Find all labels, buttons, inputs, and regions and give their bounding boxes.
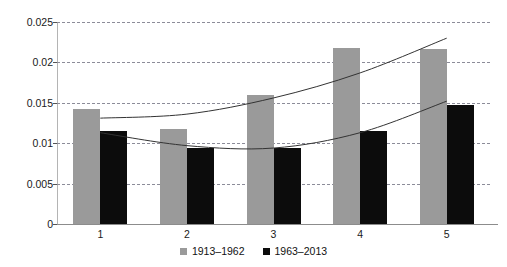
- legend-label: 1913–1962: [192, 246, 245, 257]
- plot-area: [57, 22, 490, 224]
- x-axis-tick-label: 1: [97, 229, 103, 240]
- x-axis-line: [57, 224, 498, 225]
- y-axis-tick-label: 0.01: [7, 138, 53, 149]
- legend-swatch-icon: [263, 248, 270, 255]
- bar-2-series-2: [187, 148, 214, 224]
- chart-container: 0 0.005 0.01 0.015 0.02 0.025 12345 1913…: [0, 0, 507, 267]
- x-axis-tick-label: 2: [184, 229, 190, 240]
- bar-4-series-2: [360, 131, 387, 224]
- y-axis-tick-label: 0.015: [7, 98, 53, 109]
- x-axis-tick-label: 3: [271, 229, 277, 240]
- legend-swatch-icon: [180, 248, 187, 255]
- legend-item-series-2[interactable]: 1963–2013: [263, 246, 328, 257]
- y-axis-tick-label: 0.005: [7, 178, 53, 189]
- bar-5-series-2: [447, 105, 474, 224]
- y-axis: 0 0.005 0.01 0.015 0.02 0.025: [0, 0, 53, 267]
- bar-3-series-2: [274, 148, 301, 224]
- x-axis-tick-label: 5: [444, 229, 450, 240]
- bar-2-series-1: [160, 129, 187, 224]
- bar-1-series-2: [100, 131, 127, 224]
- gridline: [57, 22, 490, 23]
- y-axis-tick-label: 0: [7, 219, 53, 230]
- legend: 1913–1962 1963–2013: [0, 246, 507, 257]
- legend-item-series-1[interactable]: 1913–1962: [180, 246, 245, 257]
- bar-5-series-1: [420, 49, 447, 224]
- bar-3-series-1: [247, 95, 274, 224]
- bar-4-series-1: [333, 48, 360, 224]
- y-axis-tick-label: 0.025: [7, 17, 53, 28]
- legend-label: 1963–2013: [275, 246, 328, 257]
- x-axis-tick-label: 4: [357, 229, 363, 240]
- y-axis-tick-label: 0.02: [7, 57, 53, 68]
- bar-1-series-1: [73, 109, 100, 224]
